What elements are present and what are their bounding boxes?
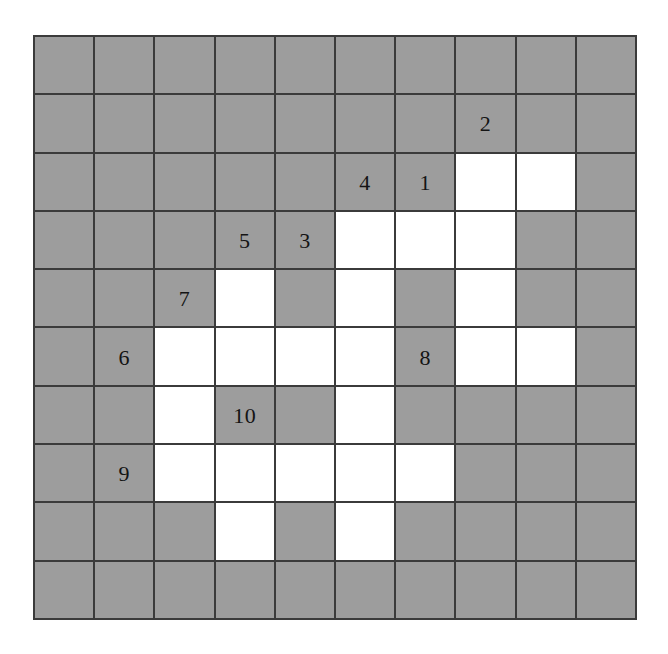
grid-cell[interactable] bbox=[155, 445, 215, 503]
grid-cell[interactable] bbox=[456, 562, 516, 620]
grid-cell[interactable] bbox=[517, 387, 577, 445]
grid-cell[interactable]: 8 bbox=[396, 328, 456, 386]
grid-cell[interactable] bbox=[35, 445, 95, 503]
grid-cell[interactable] bbox=[276, 445, 336, 503]
grid-cell[interactable] bbox=[456, 387, 516, 445]
grid-cell[interactable] bbox=[456, 154, 516, 212]
grid-cell[interactable] bbox=[35, 37, 95, 95]
grid-cell[interactable] bbox=[95, 503, 155, 561]
grid-cell[interactable] bbox=[155, 154, 215, 212]
grid-cell[interactable] bbox=[35, 503, 95, 561]
grid-cell[interactable] bbox=[456, 270, 516, 328]
grid-cell[interactable] bbox=[577, 154, 637, 212]
grid-cell[interactable] bbox=[577, 95, 637, 153]
grid-cell[interactable] bbox=[456, 328, 516, 386]
grid-cell[interactable] bbox=[336, 270, 396, 328]
grid-cell[interactable] bbox=[35, 387, 95, 445]
grid-cell[interactable] bbox=[276, 328, 336, 386]
grid-cell[interactable] bbox=[456, 503, 516, 561]
grid-cell[interactable] bbox=[456, 212, 516, 270]
grid-cell[interactable] bbox=[336, 95, 396, 153]
grid-cell[interactable] bbox=[396, 503, 456, 561]
grid-cell[interactable] bbox=[35, 212, 95, 270]
grid-cell[interactable] bbox=[517, 562, 577, 620]
grid-cell[interactable] bbox=[216, 562, 276, 620]
grid-cell[interactable] bbox=[517, 270, 577, 328]
grid-cell[interactable] bbox=[577, 503, 637, 561]
grid-cell[interactable] bbox=[456, 37, 516, 95]
grid-cell[interactable] bbox=[155, 212, 215, 270]
grid-cell[interactable] bbox=[577, 37, 637, 95]
grid-cell[interactable] bbox=[216, 503, 276, 561]
grid-cell[interactable] bbox=[216, 270, 276, 328]
grid-cell[interactable]: 10 bbox=[216, 387, 276, 445]
grid-cell[interactable] bbox=[517, 37, 577, 95]
grid-cell[interactable] bbox=[577, 212, 637, 270]
grid-cell[interactable] bbox=[216, 154, 276, 212]
grid-cell[interactable] bbox=[155, 503, 215, 561]
grid-cell[interactable] bbox=[95, 387, 155, 445]
grid-cell[interactable]: 1 bbox=[396, 154, 456, 212]
grid-cell[interactable] bbox=[517, 154, 577, 212]
grid-cell[interactable]: 2 bbox=[456, 95, 516, 153]
grid-cell[interactable] bbox=[95, 212, 155, 270]
grid-cell[interactable] bbox=[336, 503, 396, 561]
grid-cell[interactable] bbox=[155, 387, 215, 445]
grid-cell[interactable] bbox=[216, 328, 276, 386]
grid-cell[interactable] bbox=[336, 387, 396, 445]
grid-cell[interactable] bbox=[35, 562, 95, 620]
grid-cell[interactable] bbox=[276, 387, 336, 445]
grid-cell[interactable] bbox=[155, 562, 215, 620]
grid-cell[interactable] bbox=[517, 328, 577, 386]
grid-cell[interactable] bbox=[95, 37, 155, 95]
grid-cell[interactable] bbox=[35, 154, 95, 212]
grid-cell[interactable]: 7 bbox=[155, 270, 215, 328]
grid-cell[interactable] bbox=[155, 37, 215, 95]
grid-cell[interactable]: 3 bbox=[276, 212, 336, 270]
grid-cell[interactable]: 9 bbox=[95, 445, 155, 503]
grid-cell[interactable] bbox=[577, 387, 637, 445]
grid-cell[interactable] bbox=[577, 328, 637, 386]
grid-cell[interactable] bbox=[95, 154, 155, 212]
grid-cell[interactable] bbox=[276, 154, 336, 212]
grid-cell[interactable] bbox=[95, 562, 155, 620]
grid-cell[interactable] bbox=[95, 95, 155, 153]
grid-cell[interactable] bbox=[577, 445, 637, 503]
grid-cell[interactable] bbox=[396, 445, 456, 503]
grid-cell[interactable] bbox=[336, 562, 396, 620]
grid-cell[interactable] bbox=[456, 445, 516, 503]
grid-cell[interactable] bbox=[396, 37, 456, 95]
grid-cell[interactable] bbox=[35, 328, 95, 386]
grid-cell[interactable] bbox=[517, 503, 577, 561]
grid-cell[interactable] bbox=[336, 445, 396, 503]
grid-cell[interactable] bbox=[216, 95, 276, 153]
grid-cell[interactable] bbox=[216, 445, 276, 503]
grid-cell[interactable] bbox=[276, 37, 336, 95]
grid-cell[interactable] bbox=[276, 270, 336, 328]
grid-cell[interactable] bbox=[155, 328, 215, 386]
grid-cell[interactable]: 6 bbox=[95, 328, 155, 386]
grid-cell[interactable] bbox=[216, 37, 276, 95]
grid-cell[interactable]: 4 bbox=[336, 154, 396, 212]
grid-cell[interactable]: 5 bbox=[216, 212, 276, 270]
grid-cell[interactable] bbox=[155, 95, 215, 153]
grid-cell[interactable] bbox=[35, 95, 95, 153]
grid-cell[interactable] bbox=[517, 95, 577, 153]
grid-cell[interactable] bbox=[336, 212, 396, 270]
grid-cell[interactable] bbox=[276, 95, 336, 153]
grid-cell[interactable] bbox=[35, 270, 95, 328]
grid-cell[interactable] bbox=[276, 503, 336, 561]
grid-cell[interactable] bbox=[276, 562, 336, 620]
grid-cell[interactable] bbox=[336, 328, 396, 386]
grid-cell[interactable] bbox=[577, 270, 637, 328]
grid-cell[interactable] bbox=[396, 95, 456, 153]
grid-cell[interactable] bbox=[396, 270, 456, 328]
grid-cell[interactable] bbox=[336, 37, 396, 95]
grid-cell[interactable] bbox=[396, 562, 456, 620]
grid-cell[interactable] bbox=[396, 387, 456, 445]
grid-cell[interactable] bbox=[577, 562, 637, 620]
grid-cell[interactable] bbox=[396, 212, 456, 270]
grid-cell[interactable] bbox=[517, 445, 577, 503]
grid-cell[interactable] bbox=[95, 270, 155, 328]
grid-cell[interactable] bbox=[517, 212, 577, 270]
